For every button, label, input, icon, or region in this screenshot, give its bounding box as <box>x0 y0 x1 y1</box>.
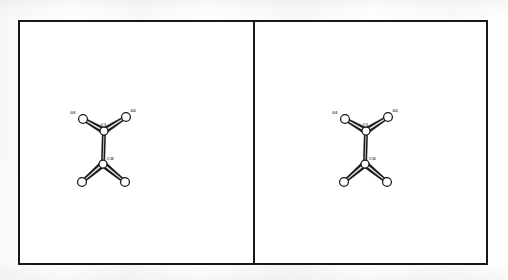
atom-label-c1i: C1I <box>107 156 114 161</box>
bond-c1-c1i <box>101 131 105 164</box>
atom-ellipsoid-o <box>341 115 350 124</box>
atom-o1: O1 <box>332 110 349 124</box>
atom-o1: O1 <box>70 110 87 124</box>
atom-ellipsoid-o <box>340 178 349 187</box>
atom-ellipsoid-c <box>361 160 369 168</box>
atom-label-o1: O1 <box>70 110 75 115</box>
stereo-panel-left: O1O2C1C1I <box>20 22 253 263</box>
atom-o2: O2 <box>384 108 398 122</box>
molecule-diagram-right: O1O2C1C1I <box>255 22 488 263</box>
figure-frame: O1O2C1C1I O1O2C1C1I <box>18 20 488 265</box>
atom-ellipsoid-o <box>79 115 88 124</box>
molecule-diagram-left: O1O2C1C1I <box>20 22 253 263</box>
atom-o2i <box>121 178 130 187</box>
atom-o1i <box>340 178 349 187</box>
atom-o2: O2 <box>122 108 136 122</box>
atom-o2i <box>383 178 392 187</box>
atom-c1: C1 <box>100 122 108 136</box>
atom-ellipsoid-o <box>384 113 393 122</box>
atom-ellipsoid-o <box>122 113 131 122</box>
atom-ellipsoid-c <box>362 127 370 135</box>
atom-ellipsoid-o <box>78 178 87 187</box>
atom-ellipsoid-o <box>121 178 130 187</box>
stereo-panel-right: O1O2C1C1I <box>255 22 488 263</box>
figure-page: O1O2C1C1I O1O2C1C1I <box>0 0 508 280</box>
bond-c1-c1i <box>363 131 367 164</box>
atom-c1: C1 <box>362 122 370 136</box>
atom-ellipsoid-c <box>100 127 108 135</box>
atom-label-o2: O2 <box>393 108 398 113</box>
atom-ellipsoid-o <box>383 178 392 187</box>
atom-label-o2: O2 <box>131 108 136 113</box>
atom-label-c1: C1 <box>101 122 106 127</box>
atom-label-c1: C1 <box>363 122 368 127</box>
atom-label-c1i: C1I <box>369 156 376 161</box>
atom-label-o1: O1 <box>332 110 337 115</box>
atom-o1i <box>78 178 87 187</box>
atom-ellipsoid-c <box>99 160 107 168</box>
